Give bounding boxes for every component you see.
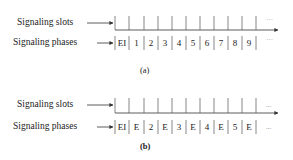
caption-b: (b) [140, 142, 150, 151]
phase-cell: 7 [214, 39, 228, 48]
phase-cell: 3 [172, 123, 186, 132]
phase-cell: E [214, 123, 228, 132]
slots-ellipsis-a: ··· [266, 17, 273, 24]
phase-cell: EI [115, 39, 129, 48]
phases-ellipsis-a: ··· [266, 37, 273, 44]
phase-cell: EI [115, 123, 129, 132]
phase-cell: 2 [144, 39, 158, 48]
phase-cell: E [242, 123, 256, 132]
phases-label-a: Signaling phases [13, 38, 77, 48]
slots-ellipsis-b: ... [266, 102, 271, 109]
phase-cell: 4 [200, 123, 214, 132]
phase-cell: 5 [228, 123, 242, 132]
phase-cell: E [129, 123, 144, 132]
slot-ticks-a [115, 16, 256, 30]
phase-cell: 3 [158, 39, 172, 48]
caption-a: (a) [140, 66, 149, 75]
phase-cell: 8 [228, 39, 242, 48]
slot-ticks-b [115, 98, 256, 113]
phases-label-b: Signaling phases [13, 122, 77, 132]
phase-cell: 1 [129, 39, 144, 48]
phase-cell: 4 [172, 39, 186, 48]
phase-cell: 9 [242, 39, 256, 48]
slots-label-b: Signaling slots [17, 100, 73, 110]
phases-ellipsis-b: ... [266, 124, 271, 131]
phase-cell: E [158, 123, 172, 132]
slots-label-a: Signaling slots [17, 18, 73, 28]
phase-cell: E [186, 123, 200, 132]
phase-cell: 5 [186, 39, 200, 48]
phase-cell: 6 [200, 39, 214, 48]
phase-cell: 2 [144, 123, 158, 132]
